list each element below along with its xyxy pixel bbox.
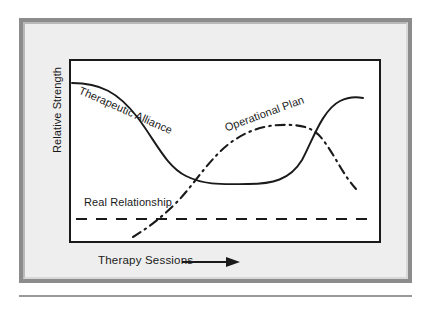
figure-caption-rule bbox=[19, 295, 412, 297]
figure-root: Relative Strength Therapy Sessions Thera… bbox=[0, 0, 433, 311]
plot-area-background bbox=[70, 60, 380, 242]
series-label-real-relationship: Real Relationship bbox=[84, 196, 172, 208]
chart-canvas bbox=[0, 0, 433, 311]
x-axis-label: Therapy Sessions bbox=[98, 254, 193, 266]
y-axis-label: Relative Strength bbox=[51, 50, 63, 170]
